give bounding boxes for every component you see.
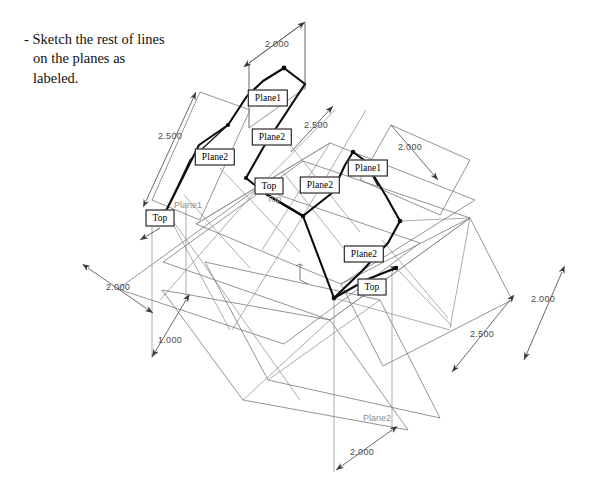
dim-line-right-lower: [524, 272, 562, 360]
drawing-page: - Sketch the rest of lines on the planes…: [0, 0, 595, 498]
dimension-value-mid-upper: 2.500: [304, 120, 328, 130]
dimension-value-left-bottom: 1.000: [158, 335, 182, 345]
ghost-label-plane2-bottom: Plane2: [363, 413, 391, 423]
dimension-value-left-lower: 2.000: [106, 282, 130, 292]
dimension-value-right-mid: 2.500: [470, 329, 494, 339]
plane-top-vertical: [249, 22, 305, 128]
dim-line-right-upper: [391, 125, 438, 180]
callout-plane2-left[interactable]: Plane2: [195, 149, 235, 166]
dimension-value-right-lower: 2.000: [531, 294, 555, 304]
dim-line-left-upper: [146, 92, 196, 201]
dimension-value-bottom: 2.000: [350, 447, 374, 457]
callout-plane2-lower-right[interactable]: Plane2: [344, 246, 384, 263]
plane-bottom-face-2: [205, 262, 440, 418]
dimension-lines: [88, 22, 562, 470]
callout-plane2-upper[interactable]: Plane2: [252, 129, 292, 146]
callout-plane1-top[interactable]: Plane1: [248, 90, 288, 107]
ghost-label-top-center: Top: [267, 194, 282, 204]
callout-top-center[interactable]: Top: [255, 178, 284, 195]
callout-plane1-right[interactable]: Plane1: [348, 160, 388, 177]
extension-lines: [152, 22, 470, 472]
dimension-value-top: 2.000: [265, 39, 289, 49]
ghost-label-plane1-left: Plane1: [174, 200, 202, 210]
origin-axis-marker: [296, 264, 308, 284]
dim-leader-top-callout: [140, 228, 160, 240]
plane-upper: [196, 143, 475, 284]
callout-top-lower-right[interactable]: Top: [358, 279, 387, 296]
dim-line-left-bottom: [152, 300, 186, 357]
dimension-value-left-upper: 2.500: [158, 131, 182, 141]
plane-bottom-face: [162, 290, 408, 430]
dimension-value-right-upper: 2.000: [398, 142, 422, 152]
callout-plane2-center[interactable]: Plane2: [300, 177, 340, 194]
callout-top-left[interactable]: Top: [146, 210, 175, 227]
instruction-text: - Sketch the rest of lines on the planes…: [24, 30, 248, 88]
